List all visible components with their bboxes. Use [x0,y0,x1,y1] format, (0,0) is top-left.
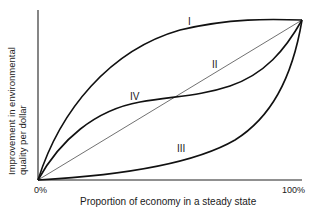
x-axis-title: Proportion of economy in a steady state [80,196,257,207]
curve-label-III: III [177,143,185,154]
x-tick-0: 0% [34,185,47,195]
curve-II [38,20,302,180]
y-axis-title-line2: quality per dollar [17,105,28,175]
line-chart: I II IV III 0% 100% Proportion of econom… [0,0,314,211]
y-axis-title-line1: Improvement in environmental [6,47,17,175]
curve-label-II: II [212,59,218,70]
x-tick-100: 100% [282,185,305,195]
curve-label-I: I [188,16,191,27]
y-axis-title: Improvement in environmental quality per… [6,47,28,175]
curve-label-IV: IV [130,91,140,102]
